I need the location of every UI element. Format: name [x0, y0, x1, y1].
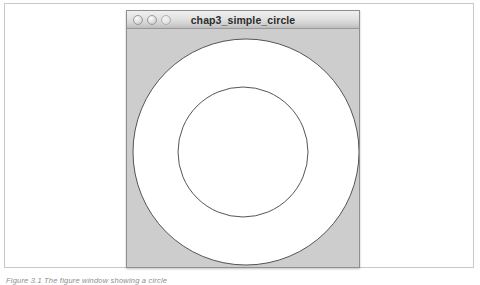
zoom-button-icon[interactable]: [161, 15, 171, 25]
window-title-bar[interactable]: chap3_simple_circle: [127, 11, 359, 29]
figure-caption: Figure 3.1 The figure window showing a c…: [6, 276, 167, 285]
close-button-icon[interactable]: [133, 15, 143, 25]
circle-drawing: [127, 29, 359, 268]
application-window[interactable]: chap3_simple_circle: [126, 10, 360, 268]
figure-frame: chap3_simple_circle: [4, 3, 474, 268]
inner-circle: [178, 87, 308, 217]
window-controls: [133, 15, 171, 25]
sketch-canvas[interactable]: [127, 29, 359, 268]
minimize-button-icon[interactable]: [147, 15, 157, 25]
